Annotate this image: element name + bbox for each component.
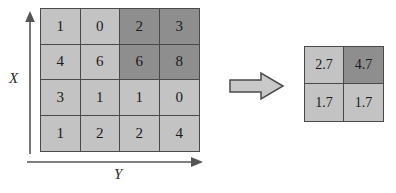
input-matrix-cell-r1c3: 2 [120, 9, 160, 45]
vertical-axis-arrow [20, 8, 40, 162]
input-matrix-cell-r4c2: 2 [81, 116, 121, 152]
input-matrix-cell-r1c2: 0 [81, 9, 121, 45]
output-matrix-cell-r2c1: 1.7 [305, 84, 344, 121]
output-matrix-cell-r2c2: 1.7 [344, 84, 383, 121]
output-matrix-cell-r1c1: 2.7 [305, 47, 344, 84]
input-matrix-cell-r1c1: 1 [41, 9, 81, 45]
input-matrix-cell-r2c2: 6 [81, 45, 121, 81]
axis-label-y: Y [114, 166, 122, 183]
output-matrix: 2.74.71.71.7 [304, 46, 384, 122]
input-matrix-cell-r2c4: 8 [160, 45, 200, 81]
block-arrow-right-icon [228, 70, 286, 106]
input-matrix-cell-r1c4: 3 [160, 9, 200, 45]
input-matrix-cell-r4c1: 1 [41, 116, 81, 152]
input-matrix: 1023466831101224 [40, 8, 200, 152]
input-matrix-cell-r3c4: 0 [160, 80, 200, 116]
input-matrix-cell-r2c3: 6 [120, 45, 160, 81]
output-matrix-cell-r1c2: 4.7 [344, 47, 383, 84]
input-matrix-cell-r3c1: 3 [41, 80, 81, 116]
input-matrix-cell-r4c3: 2 [120, 116, 160, 152]
input-matrix-cell-r4c4: 4 [160, 116, 200, 152]
diagram-canvas: X Y 1023466831101224 2.74.71.71.7 [0, 0, 396, 193]
input-matrix-cell-r3c3: 1 [120, 80, 160, 116]
axis-label-x: X [9, 70, 18, 87]
input-matrix-cell-r3c2: 1 [81, 80, 121, 116]
input-matrix-cell-r2c1: 4 [41, 45, 81, 81]
